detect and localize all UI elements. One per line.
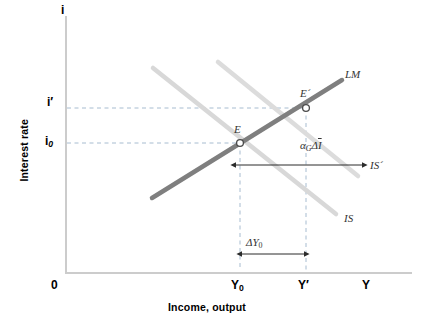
y-tick-i-zero: i0	[45, 135, 53, 149]
x-tick-y-zero: Y0	[231, 279, 244, 293]
point-E	[237, 140, 244, 147]
lm-curve-label: LM	[345, 69, 360, 80]
point-E-label: E	[234, 124, 241, 135]
is-lm-diagram: Interest rate Income, output i Y 0 i′ i0…	[0, 0, 428, 325]
x-axis-title: Income, output	[168, 302, 246, 313]
point-E-prime	[303, 105, 310, 112]
guide-lines	[67, 108, 306, 270]
y-axis-symbol: i	[61, 4, 64, 16]
y-axis-title: Interest rate	[19, 102, 30, 198]
output-change-label: ΔY0	[246, 237, 263, 250]
is-prime-curve-label: IS´	[370, 160, 383, 171]
origin-label: 0	[51, 279, 58, 291]
y-tick-i-prime: i′	[47, 96, 53, 108]
shift-annotation-label: αGΔI	[300, 140, 322, 153]
x-tick-y-prime: Y′	[298, 279, 309, 291]
plot-canvas	[0, 0, 428, 325]
is-prime-curve	[218, 62, 358, 176]
is-curve-label: IS	[344, 213, 353, 224]
x-axis-symbol: Y	[362, 279, 370, 291]
point-E-prime-label: E´	[300, 88, 310, 99]
